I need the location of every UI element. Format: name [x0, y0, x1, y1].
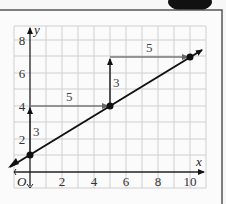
origin-label: O	[17, 174, 27, 189]
run-label-1: 5	[66, 89, 73, 104]
x-axis-label: x	[195, 154, 202, 169]
y-axis-label: y	[32, 22, 40, 37]
point-10-7	[187, 54, 194, 61]
graph-figure: y x O 2 4 6 8 10 2 4 6 8 3 5 3 5	[0, 0, 226, 204]
y-tick-4: 4	[19, 99, 26, 114]
rise-label-1: 3	[33, 124, 40, 139]
x-tick-4: 4	[91, 174, 98, 189]
y-tick-2: 2	[19, 132, 26, 147]
rise-label-2: 3	[113, 75, 120, 90]
x-tick-10: 10	[184, 174, 197, 189]
point-5-4	[107, 103, 114, 110]
x-tick-8: 8	[155, 174, 162, 189]
point-0-1	[27, 152, 34, 159]
x-tick-2: 2	[59, 174, 66, 189]
x-tick-6: 6	[123, 174, 130, 189]
y-tick-6: 6	[19, 66, 26, 81]
y-tick-8: 8	[19, 33, 26, 48]
run-label-2: 5	[146, 40, 153, 55]
